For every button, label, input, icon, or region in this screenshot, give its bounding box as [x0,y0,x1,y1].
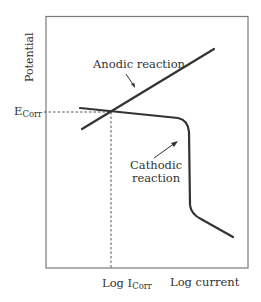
polarization-diagram: Potential Anodic reaction Cathodic react… [0,0,261,302]
y-axis-label: Potential [24,32,35,82]
cathodic-pointer-line [154,143,175,158]
cathodic-reaction-label: Cathodic reaction [130,159,182,185]
ecorr-label: ECorr [14,106,42,119]
diagram-canvas [0,0,261,302]
plot-frame [46,17,248,269]
icorr-sub: Corr [132,281,152,291]
icorr-main: Log I [102,276,132,290]
anodic-reaction-label: Anodic reaction [93,59,185,71]
anodic-arrowhead-icon [131,83,135,88]
ecorr-sub: Corr [22,109,42,119]
cathodic-label-line2: reaction [130,172,182,185]
icorr-label: Log ICorr [102,278,152,291]
cathodic-arrowhead-icon [171,141,178,147]
x-axis-label: Log current [170,277,239,289]
